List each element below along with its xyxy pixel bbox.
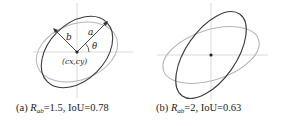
center-point <box>209 53 212 56</box>
caption-prefix: (b) <box>156 102 171 113</box>
center-point <box>75 50 78 53</box>
label-a: a <box>88 27 93 37</box>
label-theta: θ <box>92 41 97 51</box>
label-b: b <box>66 32 72 42</box>
caption-text: =2, IoU=0.63 <box>184 102 241 113</box>
caption-prefix: (a) <box>16 102 30 113</box>
panel-b <box>156 0 268 110</box>
label-center: (cx,cy) <box>62 57 87 66</box>
caption-a: (a) Rab=1.5, IoU=0.78 <box>16 102 109 115</box>
caption-text: =1.5, IoU=0.78 <box>44 102 109 113</box>
theta-arc <box>86 44 90 53</box>
caption-b: (b) Rab=2, IoU=0.63 <box>156 102 241 115</box>
panel-a: a b θ (cx,cy) <box>28 3 133 102</box>
caption-subscript: ab <box>37 107 44 115</box>
